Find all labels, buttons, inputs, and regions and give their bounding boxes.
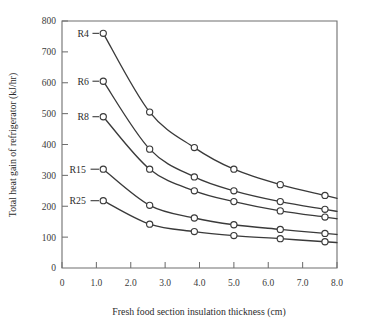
x-axis-tick-labels: 01.02.03.04.05.06.07.08.0 (60, 278, 344, 288)
svg-text:R15: R15 (70, 164, 86, 175)
svg-text:7.0: 7.0 (297, 278, 309, 288)
chart-figure: 01.02.03.04.05.06.07.08.0 01002003004005… (0, 0, 367, 327)
svg-text:0: 0 (60, 278, 65, 288)
svg-text:400: 400 (42, 140, 57, 150)
svg-text:4.0: 4.0 (194, 278, 206, 288)
svg-text:1.0: 1.0 (90, 278, 102, 288)
x-axis-title: Fresh food section insulation thickness … (112, 306, 285, 318)
svg-text:R8: R8 (77, 111, 89, 122)
svg-text:800: 800 (42, 16, 57, 26)
svg-text:500: 500 (42, 109, 57, 119)
y-axis-title: Total heat gain of refrigerator (kJ/hr) (7, 73, 19, 217)
y-axis-tick-labels: 0100200300400500600700800 (42, 16, 57, 273)
svg-text:6.0: 6.0 (262, 278, 274, 288)
svg-text:5.0: 5.0 (228, 278, 240, 288)
svg-text:R6: R6 (77, 76, 89, 87)
svg-text:R4: R4 (77, 28, 89, 39)
line-chart-canvas: 01.02.03.04.05.06.07.08.0 01002003004005… (0, 0, 367, 327)
svg-text:R25: R25 (70, 195, 86, 206)
svg-text:100: 100 (42, 233, 57, 243)
svg-text:600: 600 (42, 78, 57, 88)
svg-text:300: 300 (42, 171, 57, 181)
svg-text:700: 700 (42, 47, 57, 57)
svg-text:3.0: 3.0 (159, 278, 171, 288)
svg-text:0: 0 (51, 263, 56, 273)
svg-text:8.0: 8.0 (331, 278, 343, 288)
svg-text:200: 200 (42, 202, 57, 212)
svg-text:2.0: 2.0 (125, 278, 137, 288)
